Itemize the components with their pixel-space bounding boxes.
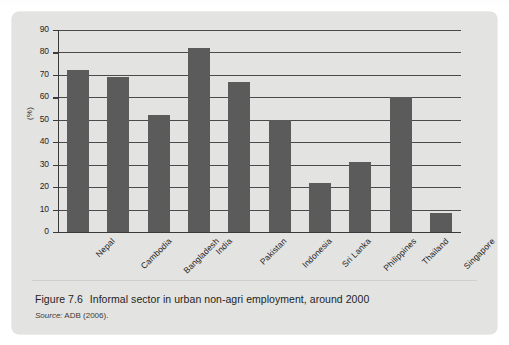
- y-axis-tick-label: 30: [40, 159, 49, 169]
- x-axis-label-pakistan: Pakistan: [258, 236, 289, 267]
- x-axis-label-nepal: Nepal: [94, 236, 117, 259]
- bar-slot: [300, 30, 340, 232]
- x-axis-label-philippines: Philippines: [382, 236, 419, 273]
- chart-plot-area: (%) 0102030405060708090 NepalCambodiaBan…: [12, 12, 497, 280]
- x-axis-label-indonesia: Indonesia: [300, 236, 334, 270]
- x-axis-label-bangladesh: Bangladesh: [181, 236, 221, 276]
- y-axis-tick-label: 90: [40, 24, 49, 34]
- bar-singapore[interactable]: [430, 213, 452, 232]
- bar-slot: [340, 30, 380, 232]
- bar-philippines[interactable]: [349, 162, 371, 232]
- y-axis-tick-label: 50: [40, 114, 49, 124]
- y-axis-tick-label: 40: [40, 136, 49, 146]
- bar-cambodia[interactable]: [107, 77, 129, 232]
- bar-india[interactable]: [188, 48, 210, 232]
- y-axis-tick-label: 60: [40, 91, 49, 101]
- page-top-text-sliver: [0, 0, 509, 7]
- x-axis-label-thailand: Thailand: [419, 236, 450, 267]
- bar-slot: [421, 30, 461, 232]
- figure-source: Source: ADB (2006).: [35, 311, 108, 320]
- figure-caption-text: Informal sector in urban non-agri employ…: [90, 293, 370, 305]
- y-axis-tick-label: 0: [44, 226, 49, 236]
- y-axis-tick-label: 80: [40, 46, 49, 56]
- y-axis-tick-label: 10: [40, 204, 49, 214]
- x-axis-label-cambodia: Cambodia: [139, 236, 174, 271]
- caption-divider: [32, 280, 477, 281]
- bar-slot: [98, 30, 138, 232]
- y-axis-label: (%): [25, 107, 34, 120]
- figure-caption: Figure 7.6Informal sector in urban non-a…: [35, 293, 369, 305]
- bar-slot: [380, 30, 420, 232]
- x-axis-label-singapore: Singapore: [461, 236, 496, 271]
- bar-nepal[interactable]: [67, 70, 89, 232]
- y-axis-tick-label: 70: [40, 69, 49, 79]
- bar-bangladesh[interactable]: [148, 115, 170, 232]
- y-axis-tick-mark: [53, 232, 58, 233]
- gridline-0: [58, 232, 461, 233]
- bar-slot: [179, 30, 219, 232]
- bar-slot: [58, 30, 98, 232]
- bar-slot: [219, 30, 259, 232]
- bar-slot: [139, 30, 179, 232]
- bar-indonesia[interactable]: [269, 120, 291, 232]
- figure-number: Figure 7.6: [35, 293, 83, 305]
- source-label: Source:: [35, 311, 63, 320]
- bar-pakistan[interactable]: [228, 82, 250, 232]
- bar-thailand[interactable]: [390, 97, 412, 232]
- y-axis-tick-label: 20: [40, 181, 49, 191]
- x-axis-category-labels: NepalCambodiaBangladeshIndiaPakistanIndo…: [58, 236, 461, 282]
- figure-caption-block: Figure 7.6Informal sector in urban non-a…: [12, 280, 497, 334]
- bar-sri-lanka[interactable]: [309, 183, 331, 232]
- chart-bars: [58, 30, 461, 232]
- bar-slot: [260, 30, 300, 232]
- x-axis-label-sri-lanka: Sri Lanka: [340, 236, 373, 269]
- source-text: ADB (2006).: [64, 311, 108, 320]
- figure-panel: (%) 0102030405060708090 NepalCambodiaBan…: [12, 12, 497, 334]
